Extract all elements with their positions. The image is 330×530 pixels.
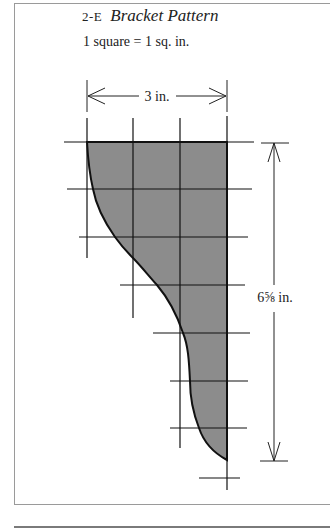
width-dimension-label: 3 in. <box>145 89 170 104</box>
height-dimension-label: 6⅝ in. <box>257 290 292 305</box>
bracket-shape <box>87 142 227 460</box>
bracket-pattern-diagram: 3 in. 6⅝ in. <box>0 0 330 530</box>
